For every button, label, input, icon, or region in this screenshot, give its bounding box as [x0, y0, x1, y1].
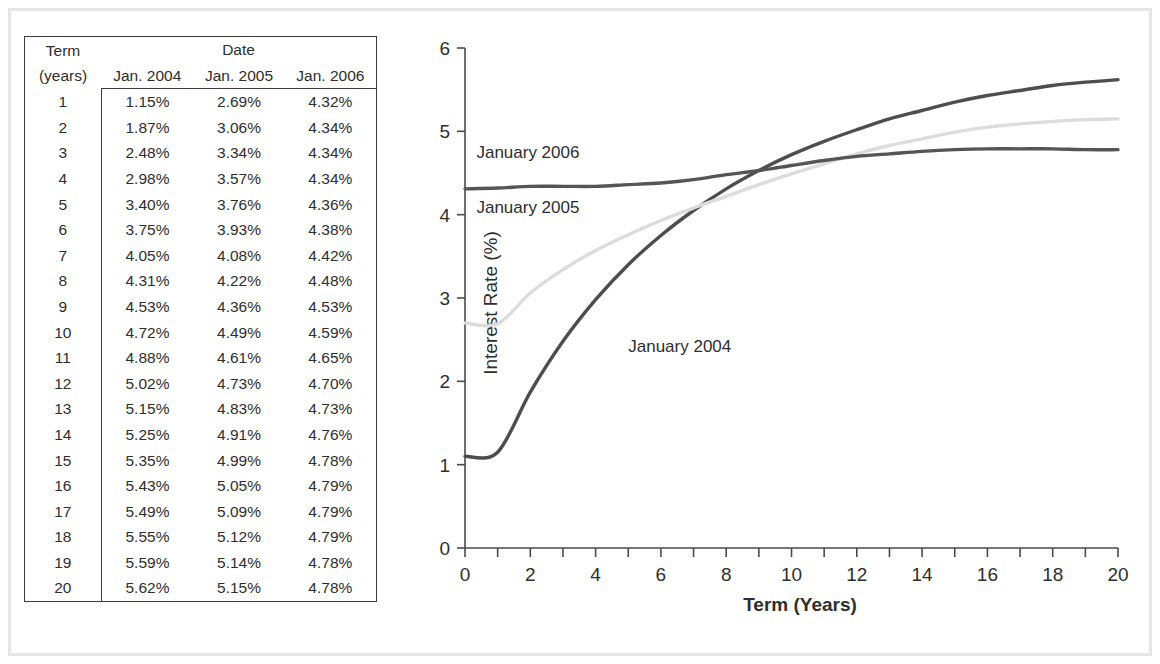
table-head: Term (years) Date Jan. 2004 Jan. 2005 Ja… [25, 37, 377, 89]
rates-table-container: Term (years) Date Jan. 2004 Jan. 2005 Ja… [24, 36, 377, 602]
cell-jan-2004: 4.72% [101, 320, 193, 346]
cell-jan-2004: 2.48% [101, 140, 193, 166]
cell-jan-2006: 4.65% [285, 345, 377, 371]
cell-jan-2006: 4.78% [285, 575, 377, 601]
cell-jan-2005: 3.76% [193, 192, 284, 218]
cell-jan-2006: 4.76% [285, 422, 377, 448]
header-col-jan-2004: Jan. 2004 [101, 63, 193, 89]
table-row: 84.31%4.22%4.48% [25, 268, 377, 294]
cell-term: 2 [25, 115, 102, 141]
table-row: 11.15%2.69%4.32% [25, 89, 377, 115]
cell-jan-2005: 4.49% [193, 320, 284, 346]
cell-jan-2005: 4.61% [193, 345, 284, 371]
cell-jan-2005: 2.69% [193, 89, 284, 115]
cell-jan-2004: 3.40% [101, 192, 193, 218]
chart-axes: 012345602468101214161820 [439, 38, 1128, 585]
cell-term: 9 [25, 294, 102, 320]
cell-term: 11 [25, 345, 102, 371]
cell-jan-2005: 4.08% [193, 243, 284, 269]
cell-jan-2006: 4.48% [285, 268, 377, 294]
cell-jan-2006: 4.79% [285, 473, 377, 499]
table-head-row-1: Term (years) Date [25, 37, 377, 63]
cell-jan-2006: 4.38% [285, 217, 377, 243]
cell-term: 8 [25, 268, 102, 294]
cell-jan-2004: 5.02% [101, 371, 193, 397]
table-row: 125.02%4.73%4.70% [25, 371, 377, 397]
cell-jan-2004: 2.98% [101, 166, 193, 192]
cell-jan-2005: 4.91% [193, 422, 284, 448]
x-tick-label: 12 [846, 564, 867, 585]
cell-jan-2006: 4.73% [285, 396, 377, 422]
header-term: Term (years) [25, 37, 102, 89]
table-row: 104.72%4.49%4.59% [25, 320, 377, 346]
table-row: 114.88%4.61%4.65% [25, 345, 377, 371]
header-term-line1: Term [25, 38, 101, 63]
cell-jan-2005: 4.99% [193, 448, 284, 474]
cell-jan-2004: 5.35% [101, 448, 193, 474]
x-tick-label: 0 [460, 564, 471, 585]
cell-jan-2005: 5.09% [193, 499, 284, 525]
cell-term: 20 [25, 575, 102, 601]
cell-jan-2004: 1.87% [101, 115, 193, 141]
table-row: 53.40%3.76%4.36% [25, 192, 377, 218]
header-term-line2: (years) [25, 63, 101, 88]
table-row: 145.25%4.91%4.76% [25, 422, 377, 448]
cell-jan-2006: 4.78% [285, 448, 377, 474]
cell-term: 7 [25, 243, 102, 269]
cell-jan-2006: 4.42% [285, 243, 377, 269]
cell-jan-2004: 4.31% [101, 268, 193, 294]
cell-jan-2006: 4.34% [285, 115, 377, 141]
x-tick-label: 18 [1042, 564, 1063, 585]
x-tick-label: 16 [977, 564, 998, 585]
table-row: 32.48%3.34%4.34% [25, 140, 377, 166]
table-row: 74.05%4.08%4.42% [25, 243, 377, 269]
cell-term: 13 [25, 396, 102, 422]
cell-jan-2004: 1.15% [101, 89, 193, 115]
cell-jan-2004: 5.62% [101, 575, 193, 601]
cell-jan-2005: 3.06% [193, 115, 284, 141]
table-row: 205.62%5.15%4.78% [25, 575, 377, 601]
table-row: 135.15%4.83%4.73% [25, 396, 377, 422]
cell-jan-2006: 4.32% [285, 89, 377, 115]
table-body: 11.15%2.69%4.32%21.87%3.06%4.34%32.48%3.… [25, 89, 377, 602]
cell-term: 12 [25, 371, 102, 397]
cell-term: 16 [25, 473, 102, 499]
cell-jan-2004: 4.53% [101, 294, 193, 320]
cell-jan-2004: 5.49% [101, 499, 193, 525]
x-tick-label: 20 [1107, 564, 1128, 585]
cell-term: 17 [25, 499, 102, 525]
cell-jan-2006: 4.79% [285, 524, 377, 550]
chart-canvas: 012345602468101214161820 January 2004Jan… [400, 24, 1140, 634]
cell-term: 19 [25, 550, 102, 576]
cell-term: 4 [25, 166, 102, 192]
cell-jan-2005: 4.73% [193, 371, 284, 397]
x-tick-label: 8 [721, 564, 732, 585]
yield-curve-chart: Interest Rate (%) Term (Years) 012345602… [400, 24, 1140, 634]
cell-jan-2005: 3.34% [193, 140, 284, 166]
y-tick-label: 5 [439, 121, 450, 142]
cell-jan-2006: 4.70% [285, 371, 377, 397]
cell-jan-2004: 5.55% [101, 524, 193, 550]
series-label-january-2004: January 2004 [628, 337, 731, 356]
y-tick-label: 3 [439, 288, 450, 309]
table-row: 175.49%5.09%4.79% [25, 499, 377, 525]
table-row: 94.53%4.36%4.53% [25, 294, 377, 320]
series-label-january-2005: January 2005 [476, 198, 579, 217]
table-row: 63.75%3.93%4.38% [25, 217, 377, 243]
x-tick-label: 4 [590, 564, 601, 585]
cell-jan-2005: 5.14% [193, 550, 284, 576]
chart-series-labels: January 2004January 2005January 2006 [476, 143, 731, 356]
header-col-jan-2005: Jan. 2005 [193, 63, 284, 89]
cell-jan-2004: 3.75% [101, 217, 193, 243]
table-row: 185.55%5.12%4.79% [25, 524, 377, 550]
x-tick-label: 2 [525, 564, 536, 585]
cell-jan-2006: 4.36% [285, 192, 377, 218]
cell-term: 1 [25, 89, 102, 115]
y-tick-label: 6 [439, 38, 450, 59]
header-col-jan-2006: Jan. 2006 [285, 63, 377, 89]
cell-jan-2006: 4.34% [285, 166, 377, 192]
cell-jan-2006: 4.79% [285, 499, 377, 525]
cell-jan-2006: 4.34% [285, 140, 377, 166]
cell-term: 5 [25, 192, 102, 218]
cell-jan-2004: 4.05% [101, 243, 193, 269]
